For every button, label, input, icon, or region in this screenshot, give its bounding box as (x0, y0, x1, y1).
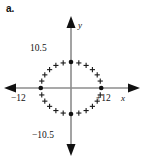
plus-marker (90, 104, 95, 109)
y-axis-label: y (78, 20, 82, 30)
plus-marker (95, 72, 100, 77)
figure-container: a. 10.5 −10.5 −12 +12 y x (0, 0, 144, 158)
y-axis-tick-label-negative: −10.5 (32, 130, 54, 140)
x-axis-tick-label-negative: −12 (11, 93, 26, 103)
coordinate-plane: 10.5 −10.5 −12 +12 y x (0, 0, 144, 158)
vertex-dot (99, 86, 104, 91)
plus-marker (76, 110, 81, 115)
x-axis-tick-label-positive: +12 (96, 93, 111, 103)
y-axis-tick-label-positive: 10.5 (30, 43, 47, 53)
x-axis-left-arrowhead (4, 84, 16, 93)
x-axis-right-arrowhead (128, 84, 140, 93)
vertex-dot (69, 60, 74, 65)
plus-marker (90, 67, 95, 72)
plus-marker (53, 108, 58, 113)
plus-marker (39, 92, 44, 97)
plus-marker (42, 99, 47, 104)
plus-marker (39, 78, 44, 83)
plus-marker (47, 104, 52, 109)
y-axis-bottom-arrowhead (67, 144, 76, 156)
vertex-dot (69, 112, 74, 117)
plus-marker (53, 63, 58, 68)
plus-marker (61, 110, 66, 115)
plus-marker (84, 63, 89, 68)
plus-marker (98, 78, 103, 83)
plus-marker (61, 60, 66, 65)
plot-canvas (0, 0, 144, 158)
plus-marker (42, 72, 47, 77)
x-axis-label: x (121, 93, 125, 103)
vertex-dot (38, 86, 43, 91)
plus-marker (84, 108, 89, 113)
y-axis-top-arrowhead (67, 16, 76, 28)
plus-marker (47, 67, 52, 72)
plus-marker (76, 60, 81, 65)
